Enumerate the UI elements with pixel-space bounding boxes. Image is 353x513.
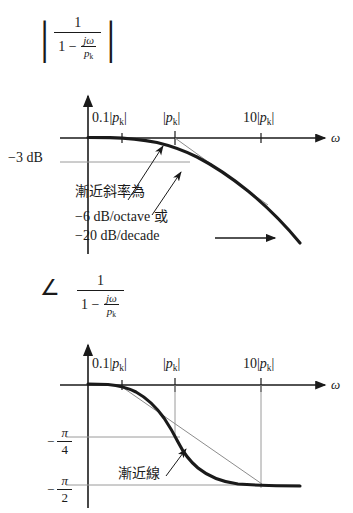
magnitude-leader-arrow-1 bbox=[152, 172, 181, 215]
bode-plot-figure: | 1 1 − jω pk | 0.1|pk| |pk| 10|pk| −3 d… bbox=[0, 0, 353, 513]
phase-leader-arrow bbox=[166, 449, 186, 476]
magnitude-curve bbox=[88, 138, 300, 244]
phase-asymptote-line bbox=[122, 387, 262, 484]
phase-curve bbox=[88, 384, 300, 486]
plot-vector-layer bbox=[0, 0, 353, 513]
magnitude-leader-arrow-0 bbox=[128, 146, 163, 200]
